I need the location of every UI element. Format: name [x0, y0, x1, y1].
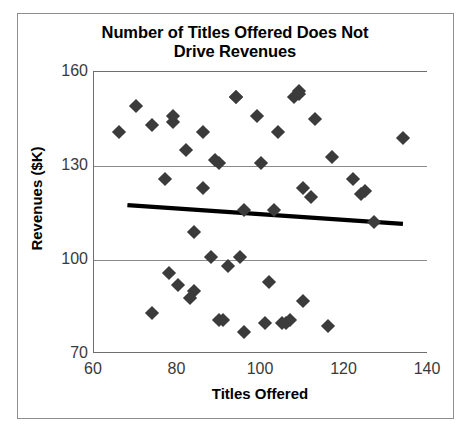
data-point — [304, 190, 318, 204]
data-point — [195, 124, 209, 138]
x-tick-label-140: 140 — [397, 360, 457, 378]
data-point — [250, 109, 264, 123]
y-axis-tick-labels: 70100130160 — [40, 71, 88, 353]
data-point — [187, 225, 201, 239]
y-axis-title: Revenues ($K) — [28, 119, 45, 279]
data-point — [271, 124, 285, 138]
chart-title-line-1: Number of Titles Offered Does Not — [40, 23, 430, 42]
data-point — [321, 319, 335, 333]
data-point — [112, 124, 126, 138]
data-point — [129, 99, 143, 113]
data-point — [145, 118, 159, 132]
data-point — [325, 150, 339, 164]
data-point — [162, 265, 176, 279]
x-axis-tick-labels: 6080100120140 — [93, 360, 427, 382]
data-point — [237, 203, 251, 217]
data-point — [308, 112, 322, 126]
data-point — [266, 203, 280, 217]
data-point — [204, 250, 218, 264]
chart-figure: Number of Titles Offered Does Not Drive … — [0, 0, 471, 435]
data-point — [158, 171, 172, 185]
data-point — [346, 171, 360, 185]
x-tick-label-60: 60 — [63, 360, 123, 378]
data-point — [262, 275, 276, 289]
data-point — [237, 325, 251, 339]
x-axis-title: Titles Offered — [93, 385, 427, 402]
x-tick-label-80: 80 — [147, 360, 207, 378]
y-tick-label-160: 160 — [42, 62, 88, 80]
data-point — [258, 316, 272, 330]
data-point — [396, 131, 410, 145]
x-tick-label-100: 100 — [230, 360, 290, 378]
x-tick-label-120: 120 — [314, 360, 374, 378]
data-point — [229, 90, 243, 104]
y-tick-label-100: 100 — [42, 250, 88, 268]
y-tick-label-130: 130 — [42, 156, 88, 174]
data-point — [170, 278, 184, 292]
data-point — [233, 250, 247, 264]
data-point — [195, 181, 209, 195]
data-point — [145, 306, 159, 320]
gridline-y-100 — [94, 260, 427, 261]
chart-title: Number of Titles Offered Does Not Drive … — [40, 23, 430, 62]
data-point — [296, 294, 310, 308]
plot-area — [93, 71, 427, 353]
data-point — [179, 143, 193, 157]
chart-title-line-2: Drive Revenues — [40, 42, 430, 61]
data-point — [367, 215, 381, 229]
data-point — [254, 156, 268, 170]
